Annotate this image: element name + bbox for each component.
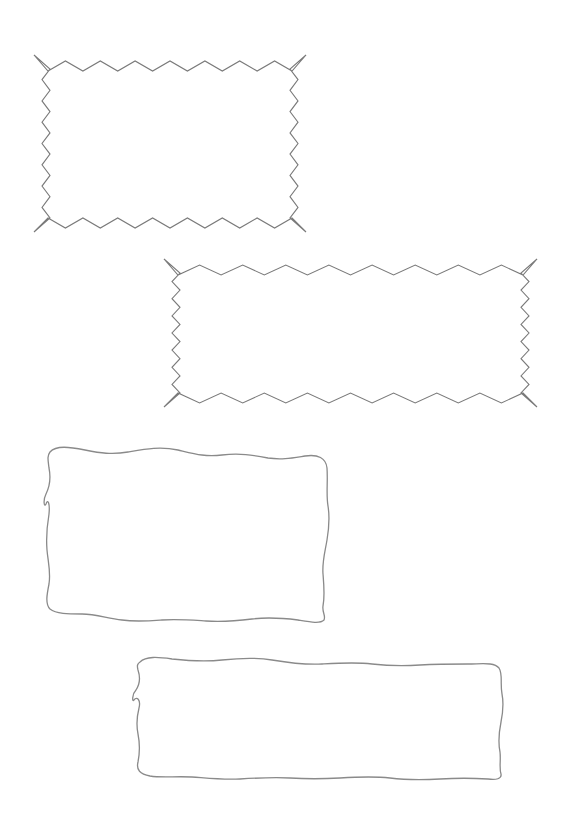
page bbox=[0, 0, 574, 827]
frames-canvas bbox=[0, 0, 574, 827]
wavy-frame-2 bbox=[133, 657, 503, 779]
zigzag-frame-1 bbox=[34, 55, 306, 232]
wavy-frame-1 bbox=[44, 447, 329, 622]
zigzag-frame-2 bbox=[164, 259, 537, 407]
